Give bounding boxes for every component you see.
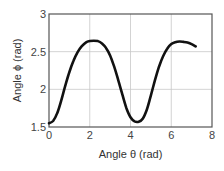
y-tick-label: 2 — [40, 83, 46, 95]
data-series-line — [49, 41, 196, 124]
y-tick-label: 1.5 — [31, 121, 46, 133]
y-tick-label: 2.5 — [31, 46, 46, 58]
y-axis-label: Angle ϕ (rad) — [11, 39, 23, 103]
x-tick-label: 8 — [209, 129, 215, 141]
line-chart: 02468 1.522.53 Angle θ (rad) Angle ϕ (ra… — [0, 0, 224, 171]
x-axis-label: Angle θ (rad) — [99, 148, 163, 160]
x-axis-ticks: 02468 — [46, 129, 215, 141]
x-tick-label: 4 — [127, 129, 133, 141]
x-tick-label: 0 — [46, 129, 52, 141]
x-tick-label: 2 — [87, 129, 93, 141]
x-tick-label: 6 — [168, 129, 174, 141]
y-tick-label: 3 — [40, 8, 46, 20]
y-axis-ticks: 1.522.53 — [31, 8, 46, 133]
grid-lines — [49, 14, 212, 127]
